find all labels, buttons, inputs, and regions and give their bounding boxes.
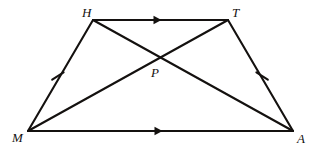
vertex-label-t: T — [232, 6, 239, 19]
vertex-label-m: M — [12, 131, 23, 144]
geometry-diagram-canvas: H T M A P — [0, 0, 318, 155]
parallel-arrow-marker-ma — [155, 127, 163, 135]
point-label-p: P — [151, 66, 159, 79]
trapezoid-figure — [0, 0, 318, 155]
parallel-arrow-marker-ht — [154, 16, 162, 24]
vertex-label-h: H — [82, 6, 91, 19]
vertex-label-a: A — [297, 132, 305, 145]
